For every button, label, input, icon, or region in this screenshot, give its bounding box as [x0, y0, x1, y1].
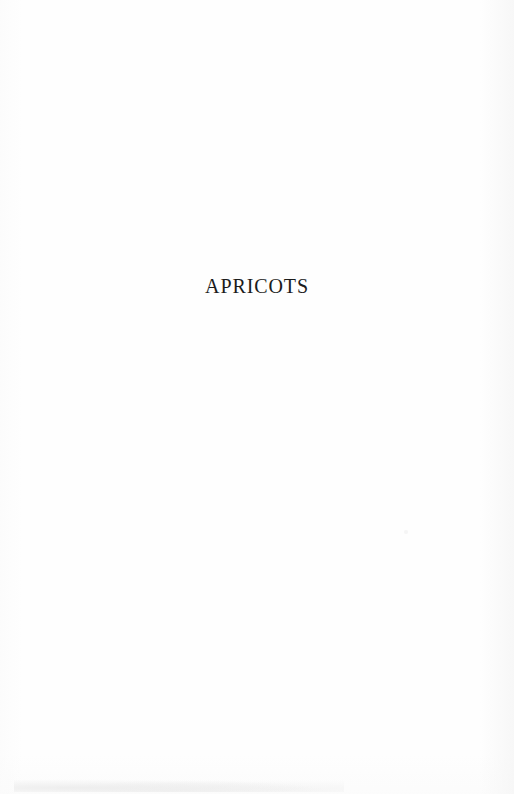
paper-tone-overlay	[0, 0, 514, 794]
scanned-book-page: APRICOTS	[0, 0, 514, 794]
section-title-block: APRICOTS	[0, 274, 514, 298]
scan-dust-speck	[404, 530, 408, 534]
scan-edge-smudge	[14, 778, 344, 792]
page-title: APRICOTS	[205, 274, 309, 298]
